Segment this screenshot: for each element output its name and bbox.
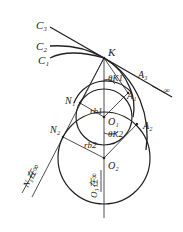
label-a3: A₃ <box>137 69 148 80</box>
label-theta-k2: θK2 <box>108 129 123 139</box>
label-a2: A₂ <box>142 120 153 131</box>
label-c2: C₂ <box>36 40 47 52</box>
label-o2: O₂ <box>108 160 119 171</box>
label-a1: A₁ <box>126 90 137 101</box>
label-n1: N₁ <box>64 95 75 106</box>
label-inf-a3: ∞ <box>164 86 170 95</box>
involute-diagram: C₃ C₂ C₁ K A₃ ∞ θK1 A₁ N₁ rb1 O₁ A₂ N₂ θ… <box>0 0 183 232</box>
label-theta-k1: θK1 <box>108 73 123 83</box>
point-n1 <box>79 102 81 104</box>
label-k: K <box>107 46 116 58</box>
diagram-canvas: C₃ C₂ C₁ K A₃ ∞ θK1 A₁ N₁ rb1 O₁ A₂ N₂ θ… <box>0 0 183 232</box>
label-rb2: rb2 <box>84 140 97 150</box>
label-o1: O₁ <box>108 116 119 127</box>
point-o2 <box>103 157 106 160</box>
point-o1 <box>103 116 106 119</box>
point-n2 <box>62 136 64 138</box>
label-n2: N₂ <box>49 124 61 135</box>
label-rb1: rb1 <box>90 106 103 116</box>
point-k <box>103 57 106 60</box>
label-o3-infinity: O₃在∞ <box>89 173 99 198</box>
point-a2 <box>136 123 138 125</box>
label-c3: C₃ <box>36 19 47 31</box>
label-c1: C₁ <box>38 54 49 66</box>
